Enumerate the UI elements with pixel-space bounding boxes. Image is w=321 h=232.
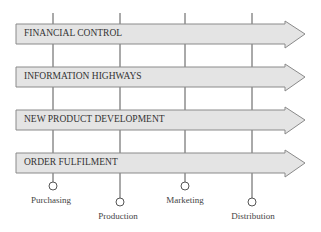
process-label-order-fulfilment: ORDER FULFILMENT — [24, 157, 118, 167]
process-label-financial-control: FINANCIAL CONTROL — [24, 28, 122, 38]
production-node-icon — [116, 198, 124, 206]
marketing-node-icon — [181, 182, 189, 190]
purchasing-node-icon — [49, 182, 57, 190]
department-label-marketing: Marketing — [166, 195, 204, 205]
process-label-information-highways: INFORMATION HIGHWAYS — [24, 71, 142, 81]
distribution-node-icon — [248, 198, 256, 206]
department-label-distribution: Distribution — [231, 211, 275, 221]
department-label-purchasing: Purchasing — [31, 195, 71, 205]
department-label-production: Production — [98, 211, 138, 221]
process-label-new-product-development: NEW PRODUCT DEVELOPMENT — [24, 114, 165, 124]
